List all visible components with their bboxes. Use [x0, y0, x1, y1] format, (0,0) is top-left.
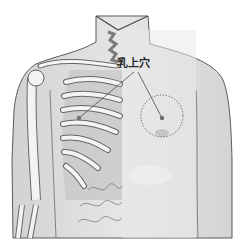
torso-drawing	[0, 0, 245, 250]
acupoint-marker-left	[77, 116, 81, 120]
acupoint-illustration: 乳上穴	[0, 0, 245, 250]
acupoint-marker-right	[160, 116, 164, 120]
acupoint-label: 乳上穴	[117, 57, 150, 71]
